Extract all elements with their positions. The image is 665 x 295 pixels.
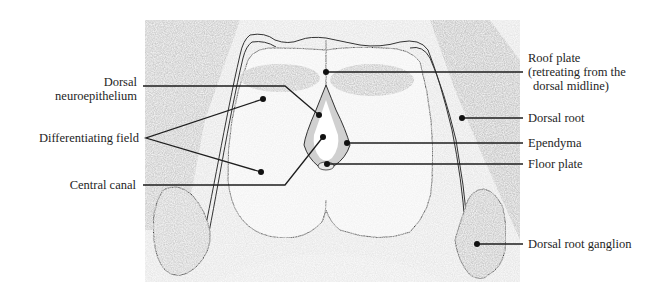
label-floor-plate: Floor plate	[528, 157, 583, 171]
label-dorsal-root: Dorsal root	[528, 111, 585, 125]
label-differentiating-field: Differentiating field	[39, 131, 139, 145]
label-dorsal-neuroepithelium: Dorsal neuroepithelium	[55, 75, 137, 103]
label-ependyma: Ependyma	[528, 136, 581, 150]
spinal-cord-diagram: Dorsal neuroepithelium Differentiating f…	[0, 0, 665, 295]
label-central-canal: Central canal	[70, 178, 136, 192]
label-roof-plate: Roof plate (retreating from the dorsal m…	[528, 51, 626, 93]
label-dorsal-root-ganglion: Dorsal root ganglion	[528, 237, 631, 251]
